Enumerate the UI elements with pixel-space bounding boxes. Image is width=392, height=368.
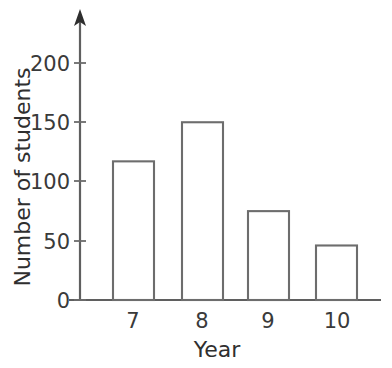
chart-canvas: 200 150 100 50 0 7 8 9 10 Year Number of… (0, 0, 392, 368)
x-axis-title: Year (193, 337, 242, 362)
y-tick-label-50: 50 (43, 230, 70, 254)
bar-year-8 (182, 122, 223, 300)
bar-year-9 (248, 211, 289, 300)
y-tick-label-100: 100 (30, 170, 70, 194)
x-tick-label-10: 10 (324, 309, 351, 333)
y-tick-label-200: 200 (30, 52, 70, 76)
y-tick-label-150: 150 (30, 111, 70, 135)
x-tick-label-8: 8 (195, 309, 208, 333)
x-tick-label-7: 7 (126, 309, 139, 333)
y-axis-title: Number of students (10, 67, 35, 286)
bar-year-10 (316, 245, 357, 300)
bar-chart: 200 150 100 50 0 7 8 9 10 Year Number of… (0, 0, 392, 368)
x-tick-label-9: 9 (261, 309, 274, 333)
bar-group (113, 122, 357, 300)
y-tick-label-0: 0 (57, 289, 70, 313)
bar-year-7 (113, 161, 154, 300)
